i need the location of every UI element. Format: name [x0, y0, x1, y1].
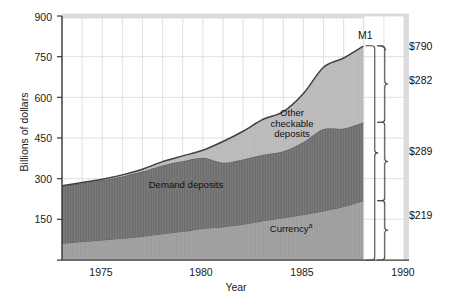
bracket-label-total-m1: $790 — [409, 40, 432, 52]
series-label-other-checkable-deposits: Other checkable deposits — [254, 108, 330, 140]
x-tick-label-1980: 1980 — [171, 266, 231, 278]
other-label-line3: deposits — [274, 128, 310, 139]
stacked-areas — [62, 16, 404, 260]
y-tick-label-600: 600 — [6, 92, 52, 104]
x-axis-title: Year — [0, 281, 472, 293]
y-tick-label-150: 150 — [6, 213, 52, 225]
y-tick-label-450: 450 — [6, 132, 52, 144]
other-label-line1: Other — [280, 107, 304, 118]
bracket-label-other-checkable: $282 — [409, 74, 432, 86]
x-tick-label-1990: 1990 — [373, 266, 433, 278]
y-tick-label-750: 750 — [6, 51, 52, 63]
y-tick-label-300: 300 — [6, 173, 52, 185]
currency-footnote-marker: a — [309, 222, 313, 229]
other-label-line2: checkable — [270, 118, 313, 129]
series-label-demand-deposits: Demand deposits — [128, 180, 244, 191]
bracket-label-demand-deposits: $289 — [409, 145, 432, 157]
y-tick-marks — [57, 16, 62, 219]
x-tick-label-1985: 1985 — [272, 266, 332, 278]
m1-total-label: M1 — [358, 29, 373, 41]
x-tick-label-1975: 1975 — [71, 266, 131, 278]
m1-money-supply-stacked-area-chart — [0, 0, 472, 305]
y-tick-label-900: 900 — [6, 11, 52, 23]
currency-label-text: Currency — [270, 223, 309, 234]
bracket-label-currency: $219 — [409, 209, 432, 221]
series-label-currency: Currencya — [248, 224, 334, 235]
